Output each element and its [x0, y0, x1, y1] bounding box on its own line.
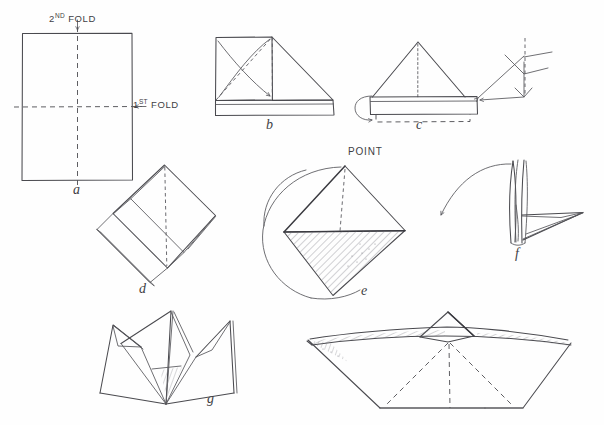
boat-fold-right: [450, 343, 513, 406]
step-label-g: g: [207, 391, 215, 407]
first-fold-label: 1ST FOLD: [133, 98, 179, 110]
step-e-point-diamond: [263, 166, 405, 299]
step-g-opened-form: [100, 311, 237, 404]
step-b-first-corner-fold: [216, 37, 335, 116]
finished-paper-boat: [307, 312, 571, 408]
step-label-b: b: [266, 117, 274, 133]
boat-fold-center: [449, 344, 450, 408]
step-b-band: [216, 100, 335, 116]
step-label-d: d: [139, 281, 147, 297]
diagram-canvas: 2ND FOLD 1ST FOLD POINT a b c d e f g: [0, 0, 604, 425]
boat-fold-left: [385, 343, 448, 406]
step-c-arrow-diag-1: [478, 56, 524, 98]
point-label: POINT: [348, 146, 383, 157]
first-fold-crease: [14, 107, 142, 108]
origami-instruction-drawing: [0, 0, 604, 425]
step-c-band: [370, 97, 478, 115]
step-d-opened-diamond: [97, 165, 216, 286]
step-label-e: e: [361, 283, 368, 299]
step-c-triangle-over-band: [355, 38, 552, 122]
second-fold-label: 2ND FOLD: [49, 12, 96, 24]
step-a-flat-sheet: [14, 20, 146, 187]
step-label-c: c: [416, 117, 423, 133]
step-label-a: a: [73, 182, 81, 198]
step-label-f: f: [515, 246, 519, 262]
step-f-pull-arrow: [441, 164, 511, 215]
step-c-curl-arrow: [355, 96, 372, 120]
boat-rim-shading-right: [477, 333, 571, 346]
step-f-pull-open: [441, 160, 583, 245]
